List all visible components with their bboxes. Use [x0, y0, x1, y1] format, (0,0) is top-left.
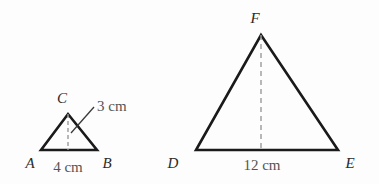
small-triangle-outline [41, 114, 97, 150]
geometry-figure: A B C 4 cm 3 cm D E F 12 cm [0, 0, 379, 184]
large-triangle-base-measure: 12 cm [243, 157, 280, 173]
small-triangle-height-measure: 3 cm [97, 98, 127, 114]
figure-canvas: A B C 4 cm 3 cm D E F 12 cm [0, 0, 379, 184]
small-triangle-base-measure: 4 cm [53, 159, 83, 175]
vertex-label-d: D [167, 155, 179, 171]
vertex-label-f: F [249, 10, 260, 26]
vertex-label-e: E [344, 155, 354, 171]
small-triangle-abc: A B C 4 cm 3 cm [24, 90, 126, 175]
vertex-label-b: B [102, 155, 111, 171]
vertex-label-a: A [24, 155, 35, 171]
large-triangle-def: D E F 12 cm [167, 10, 355, 173]
large-triangle-outline [196, 35, 338, 150]
vertex-label-c: C [57, 90, 68, 106]
